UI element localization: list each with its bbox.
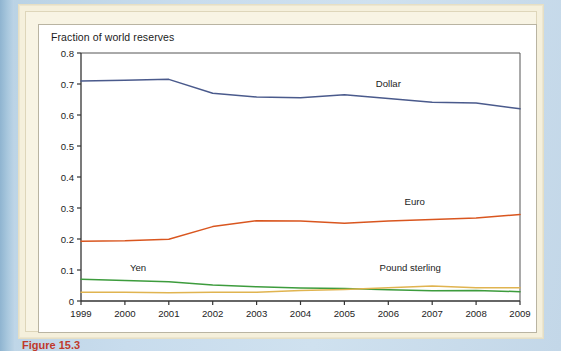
- series-label-pound-sterling: Pound sterling: [380, 262, 441, 273]
- page-gutter: [0, 0, 14, 351]
- series-line-dollar: [81, 79, 520, 108]
- y-tick-label: 0.8: [61, 48, 74, 59]
- series-line-euro: [81, 215, 520, 242]
- line-chart-plot: 00.10.20.30.40.50.60.70.8199920002001200…: [39, 25, 536, 332]
- y-tick-label: 0.5: [61, 141, 74, 152]
- x-tick-label: 2003: [246, 308, 267, 319]
- series-label-dollar: Dollar: [376, 78, 402, 89]
- series-label-euro: Euro: [405, 196, 425, 207]
- series-label-yen: Yen: [130, 262, 146, 273]
- x-tick-label: 2007: [422, 308, 443, 319]
- x-tick-label: 2008: [465, 308, 486, 319]
- y-tick-label: 0.2: [61, 234, 74, 245]
- chart-card: Fraction of world reserves 00.10.20.30.4…: [38, 24, 537, 333]
- x-tick-label: 2001: [158, 308, 179, 319]
- page-background: Fraction of world reserves 00.10.20.30.4…: [0, 0, 561, 351]
- y-tick-label: 0: [69, 296, 74, 307]
- x-tick-label: 2005: [334, 308, 355, 319]
- x-tick-label: 2006: [378, 308, 399, 319]
- x-tick-label: 2009: [509, 308, 530, 319]
- figure-panel-inner-border: Fraction of world reserves 00.10.20.30.4…: [25, 11, 537, 332]
- x-tick-label: 2002: [202, 308, 223, 319]
- y-tick-label: 0.4: [61, 172, 75, 183]
- x-tick-label: 2000: [114, 308, 135, 319]
- series-line-pound-sterling: [81, 286, 520, 293]
- figure-caption: Figure 15.3: [22, 339, 80, 351]
- y-tick-label: 0.1: [61, 265, 74, 276]
- y-tick-label: 0.6: [61, 110, 74, 121]
- y-tick-label: 0.7: [61, 79, 74, 90]
- figure-caption-strip: Figure 15.3: [18, 339, 542, 351]
- y-tick-label: 0.3: [61, 203, 74, 214]
- figure-panel: Fraction of world reserves 00.10.20.30.4…: [18, 4, 544, 339]
- x-tick-label: 1999: [70, 308, 91, 319]
- x-tick-label: 2004: [290, 308, 312, 319]
